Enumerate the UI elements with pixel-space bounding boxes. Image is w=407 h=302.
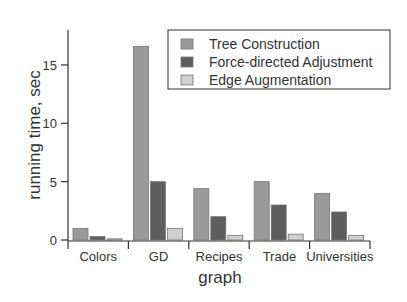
bar-gd-3 (167, 228, 182, 240)
y-tick-label: 10 (43, 116, 57, 131)
legend-label: Edge Augmentation (209, 72, 331, 88)
bar-colors-1 (73, 228, 88, 240)
bar-recipes-1 (194, 189, 209, 240)
bar-trade-3 (288, 234, 303, 240)
x-axis-label: graph (198, 268, 241, 287)
y-ticks: 051015 (43, 58, 68, 248)
legend-swatch (181, 57, 193, 67)
bar-universities-2 (332, 212, 347, 240)
bar-trade-1 (254, 182, 269, 240)
bar-trade-2 (271, 205, 286, 240)
bar-universities-3 (349, 235, 364, 240)
bar-colors-2 (90, 236, 105, 240)
x-tick-label: Recipes (196, 249, 243, 264)
x-tick-label: GD (149, 249, 169, 264)
x-ticks: ColorsGDRecipesTradeUniversities (68, 241, 374, 264)
bar-colors-3 (107, 239, 122, 240)
legend-label: Force-directed Adjustment (209, 54, 373, 70)
y-axis-label: running time, sec (25, 70, 44, 200)
x-tick-label: Trade (263, 249, 296, 264)
bar-gd-1 (133, 46, 148, 240)
legend-label: Tree Construction (209, 36, 320, 52)
legend: Tree ConstructionForce-directed Adjustme… (168, 30, 390, 89)
y-tick-label: 0 (50, 233, 57, 248)
legend-swatch (181, 75, 193, 85)
bar-gd-2 (150, 182, 165, 240)
x-tick-label: Colors (79, 249, 117, 264)
legend-swatch (181, 39, 193, 49)
x-tick-label: Universities (306, 249, 374, 264)
bar-recipes-2 (211, 217, 226, 240)
bar-recipes-3 (228, 235, 243, 240)
bar-chart: 051015 ColorsGDRecipesTradeUniversities … (0, 0, 407, 302)
y-tick-label: 15 (43, 58, 57, 73)
bar-universities-1 (315, 193, 330, 240)
y-tick-label: 5 (50, 175, 57, 190)
